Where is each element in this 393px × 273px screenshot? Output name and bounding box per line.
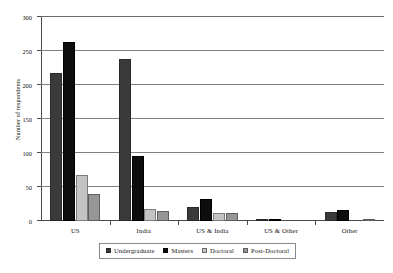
x-tick [110, 221, 111, 225]
bar-group-us [41, 17, 110, 221]
legend-swatch-icon [106, 248, 111, 253]
bar [132, 156, 144, 221]
legend-swatch-icon [243, 248, 248, 253]
bar [363, 219, 375, 221]
x-tick [315, 221, 316, 225]
legend-item-undergraduate: Undergraduate [106, 247, 154, 254]
legend-label: Doctoral [210, 247, 234, 254]
bar [88, 194, 100, 221]
plot-area: 050100150200250300 [41, 17, 384, 221]
legend-label: Masters [171, 247, 193, 254]
bar-chart: Number of respondents 050100150200250300… [0, 0, 393, 273]
chart-legend: UndergraduateMastersDoctoralPost-Doctora… [99, 243, 296, 259]
bar-group-us-india [178, 17, 247, 221]
bar-group-other [315, 17, 384, 221]
y-tick-label-0: 0 [29, 218, 32, 225]
bar [213, 213, 225, 221]
bar [157, 211, 169, 221]
bar-group-india [110, 17, 179, 221]
bar [187, 207, 199, 221]
y-tick-label-150: 150 [22, 116, 32, 123]
x-axis-label: US & India [196, 227, 228, 234]
y-tick-label-200: 200 [22, 82, 32, 89]
x-axis-label: Other [342, 227, 358, 234]
legend-item-masters: Masters [163, 247, 193, 254]
y-axis-title: Number of respondents [14, 50, 21, 170]
bar [337, 210, 349, 221]
x-axis-label: US [71, 227, 80, 234]
x-tick [178, 221, 179, 225]
bar [325, 212, 337, 221]
bar [76, 175, 88, 221]
y-tick-label-250: 250 [22, 48, 32, 55]
x-tick [247, 221, 248, 225]
legend-swatch-icon [202, 248, 207, 253]
x-axis-label: India [137, 227, 152, 234]
bar [119, 59, 131, 221]
legend-swatch-icon [163, 248, 168, 253]
bar [144, 209, 156, 221]
bar [200, 199, 212, 221]
bar-group-us-other [247, 17, 316, 221]
bar [226, 213, 238, 221]
bar [256, 219, 268, 221]
legend-item-post-doctoral: Post-Doctoral [243, 247, 289, 254]
bar [63, 42, 75, 221]
legend-label: Undergraduate [114, 247, 154, 254]
y-tick-label-50: 50 [26, 184, 32, 191]
y-tick-label-300: 300 [22, 14, 32, 21]
y-tick-label-100: 100 [22, 150, 32, 157]
bar [269, 219, 281, 221]
legend-label: Post-Doctoral [251, 247, 289, 254]
bar [50, 73, 62, 221]
legend-item-doctoral: Doctoral [202, 247, 234, 254]
x-axis-label: US & Other [264, 227, 298, 234]
